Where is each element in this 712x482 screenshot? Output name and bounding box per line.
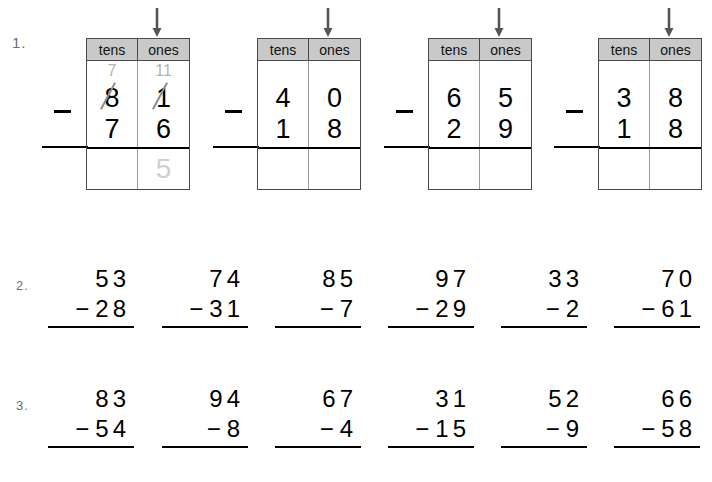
tens-column: 7 8 7 [87,61,138,147]
column-header-tens: tens [87,39,138,60]
minus-sign: − [75,414,89,444]
tens-column: 6 2 [429,61,480,147]
answer-rule-extension [384,146,430,148]
subtraction-problem-3-3[interactable]: 67 − 4 [275,384,361,448]
minus-sign [225,110,242,113]
ones-column: 8 8 [650,61,701,147]
answer-cell-tens[interactable] [599,149,650,189]
column-header-ones: ones [138,39,189,60]
table-answer-row[interactable] [599,147,701,189]
exercise-number-1: 1. [12,34,27,51]
ones-column: 0 8 [309,61,360,147]
subtraction-problem-2-1[interactable]: 53 − 28 [48,264,134,328]
subtrahend-tens-digit: 2 [429,116,479,143]
subtrahend-row: − 15 [388,414,474,444]
exercise-number-3: 3. [16,398,29,413]
column-header-ones: ones [309,39,360,60]
minuend: 53 [48,264,134,294]
answer-cell-ones[interactable] [309,149,360,189]
subtraction-problem-2-4[interactable]: 97 − 29 [388,264,474,328]
place-value-table: tens ones 6 2 5 9 [428,38,532,190]
minuend-tens-digit: 4 [258,85,308,112]
subtrahend-row: − 58 [614,414,700,444]
ones-column: 11 1 6 [138,61,189,147]
table-header-row: tens ones [429,39,531,61]
down-arrow-icon [664,8,674,38]
subtraction-problem-3-4[interactable]: 31 − 15 [388,384,474,448]
table-answer-row[interactable] [258,147,360,189]
minuend: 33 [501,264,587,294]
answer-rule [501,446,587,448]
place-value-table: tens ones 4 1 0 8 [257,38,361,190]
minus-sign: − [207,414,221,444]
minus-sign: − [320,294,334,324]
subtrahend-row: − 54 [48,414,134,444]
minus-sign: − [641,414,655,444]
answer-cell-tens[interactable] [258,149,309,189]
table-answer-row[interactable] [429,147,531,189]
minus-sign: − [546,414,560,444]
table-operands: 6 2 5 9 [429,61,531,147]
subtraction-problem-3-6[interactable]: 66 − 58 [614,384,700,448]
answer-rule [614,326,700,328]
down-arrow-icon [494,8,504,38]
table-operands: 4 1 0 8 [258,61,360,147]
regroup-mark-ones: 11 [138,63,189,79]
down-arrow-icon [323,8,333,38]
subtrahend-tens-digit: 1 [258,116,308,143]
minus-sign: − [320,414,334,444]
table-header-row: tens ones [87,39,189,61]
answer-rule-extension [42,146,88,148]
subtrahend-ones-digit: 8 [309,116,360,143]
subtrahend-row: − 2 [501,294,587,324]
subtrahend-row: − 9 [501,414,587,444]
answer-rule [388,326,474,328]
column-header-tens: tens [258,39,309,60]
column-header-ones: ones [650,39,701,60]
subtraction-problem-2-6[interactable]: 70 − 61 [614,264,700,328]
answer-cell-tens[interactable] [429,149,480,189]
answer-rule [501,326,587,328]
minuend-ones-digit: 5 [480,85,531,112]
minuend: 74 [162,264,248,294]
answer-rule [388,446,474,448]
minus-sign [54,110,71,113]
subtraction-problem-2-5[interactable]: 33 − 2 [501,264,587,328]
subtrahend-ones-digit: 9 [480,116,531,143]
subtraction-problem-3-5[interactable]: 52 − 9 [501,384,587,448]
subtrahend-row: − 8 [162,414,248,444]
subtrahend: 28 [95,294,130,324]
subtraction-problem-2-3[interactable]: 85 − 7 [275,264,361,328]
subtrahend: 9 [566,414,583,444]
answer-cell-ones[interactable]: 5 [138,149,189,189]
subtrahend-ones-digit: 8 [650,116,701,143]
place-value-table: tens ones 7 8 7 11 1 6 5 [86,38,190,190]
table-header-row: tens ones [599,39,701,61]
subtrahend: 2 [566,294,583,324]
minuend: 97 [388,264,474,294]
subtraction-problem-2-2[interactable]: 74 − 31 [162,264,248,328]
subtrahend: 31 [209,294,244,324]
minuend-tens-digit: 3 [599,85,649,112]
subtrahend: 54 [95,414,130,444]
minuend: 85 [275,264,361,294]
subtraction-problem-3-1[interactable]: 83 − 54 [48,384,134,448]
table-answer-row[interactable]: 5 [87,147,189,189]
answer-rule [48,326,134,328]
table-header-row: tens ones [258,39,360,61]
answer-cell-ones[interactable] [650,149,701,189]
subtrahend: 61 [661,294,696,324]
answer-rule [275,446,361,448]
column-header-tens: tens [599,39,650,60]
subtrahend-row: − 29 [388,294,474,324]
answer-rule [162,446,248,448]
subtrahend: 58 [661,414,696,444]
minuend-ones-digit: 0 [309,85,360,112]
answer-cell-ones[interactable] [480,149,531,189]
answer-cell-tens[interactable] [87,149,138,189]
subtraction-problem-3-2[interactable]: 94 − 8 [162,384,248,448]
minuend: 94 [162,384,248,414]
minus-sign: − [546,294,560,324]
subtrahend-ones-digit: 6 [138,116,189,143]
subtrahend-tens-digit: 1 [599,116,649,143]
